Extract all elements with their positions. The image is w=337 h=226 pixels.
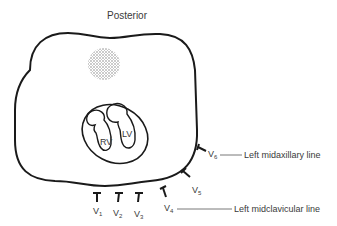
electrode-v3-icon xyxy=(135,193,143,202)
electrode-v4-icon xyxy=(160,186,166,197)
electrode-v1-icon xyxy=(93,193,101,202)
electrode-v2-icon xyxy=(115,193,123,202)
chest-cross-section-diagram: Posterior RV LV V1 V2 V3 V4 V5 V6 Left m… xyxy=(0,0,337,226)
lead-v2-label: V2 xyxy=(113,208,123,219)
lead-v5-label: V5 xyxy=(192,185,202,196)
midclavicular-label: Left midclavicular line xyxy=(234,204,320,214)
lead-v1-label: V1 xyxy=(93,206,103,217)
electrode-v6-icon xyxy=(197,144,206,151)
lead-v6-label: V6 xyxy=(208,149,218,160)
rv-label: RV xyxy=(100,137,112,147)
heart-pericardium xyxy=(72,93,158,174)
electrodes xyxy=(93,144,206,202)
posterior-label: Posterior xyxy=(107,10,148,21)
lead-v3-label: V3 xyxy=(134,209,144,220)
lead-v4-label: V4 xyxy=(164,203,174,214)
spine-vertebra xyxy=(88,48,120,80)
midaxillary-label: Left midaxillary line xyxy=(244,150,321,160)
lv-label: LV xyxy=(122,129,132,139)
